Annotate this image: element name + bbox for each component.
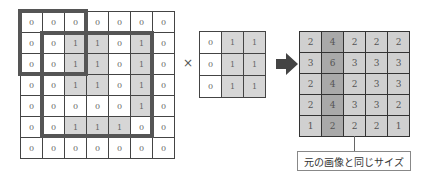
grid-cell: 1 <box>65 75 87 96</box>
grid-cell: 4 <box>322 32 344 53</box>
grid-cell: 2 <box>388 95 410 116</box>
grid-cell: 2 <box>366 32 388 53</box>
grid-cell: 1 <box>87 54 109 75</box>
grid-cell: 0 <box>109 54 131 75</box>
grid-cell: 0 <box>21 54 43 75</box>
grid-cell: 1 <box>87 75 109 96</box>
grid-cell: 1 <box>244 76 266 98</box>
output-feature-map-grid: 2422236333242332433212221 <box>299 31 410 137</box>
grid-cell: 1 <box>131 96 153 117</box>
grid-cell: 1 <box>65 54 87 75</box>
grid-cell: 0 <box>200 32 222 54</box>
grid-cell: 1 <box>300 116 322 137</box>
grid-cell: 0 <box>153 33 175 54</box>
grid-cell: 0 <box>43 54 65 75</box>
right-arrow-icon <box>276 53 298 75</box>
grid-cell: 2 <box>300 74 322 95</box>
grid-cell: 1 <box>131 33 153 54</box>
grid-cell: 0 <box>131 12 153 33</box>
grid-cell: 0 <box>153 12 175 33</box>
grid-cell: 2 <box>344 32 366 53</box>
grid-cell: 0 <box>109 75 131 96</box>
grid-cell: 4 <box>322 74 344 95</box>
grid-cell: 3 <box>366 95 388 116</box>
grid-cell: 1 <box>244 32 266 54</box>
grid-cell: 0 <box>109 33 131 54</box>
multiply-sign: × <box>183 56 193 70</box>
grid-cell: 3 <box>344 53 366 74</box>
grid-cell: 3 <box>388 53 410 74</box>
grid-cell: 0 <box>43 117 65 138</box>
grid-cell: 2 <box>388 32 410 53</box>
grid-cell: 6 <box>322 53 344 74</box>
grid-cell: 3 <box>300 53 322 74</box>
grid-cell: 0 <box>21 75 43 96</box>
grid-cell: 1 <box>131 75 153 96</box>
grid-cell: 0 <box>87 138 109 159</box>
grid-cell: 0 <box>21 96 43 117</box>
grid-cell: 0 <box>87 12 109 33</box>
grid-cell: 0 <box>21 33 43 54</box>
grid-cell: 0 <box>43 138 65 159</box>
grid-cell: 0 <box>200 76 222 98</box>
grid-cell: 2 <box>366 116 388 137</box>
grid-cell: 1 <box>222 54 244 76</box>
kernel-grid: 011011011 <box>199 31 266 98</box>
grid-cell: 3 <box>388 74 410 95</box>
grid-cell: 0 <box>153 117 175 138</box>
grid-cell: 1 <box>87 33 109 54</box>
same-size-label: 元の画像と同じサイズ <box>297 151 411 171</box>
grid-cell: 0 <box>43 33 65 54</box>
grid-cell: 1 <box>87 117 109 138</box>
grid-cell: 0 <box>200 54 222 76</box>
grid-cell: 4 <box>322 95 344 116</box>
grid-cell: 1 <box>109 117 131 138</box>
grid-cell: 1 <box>65 33 87 54</box>
grid-cell: 3 <box>366 74 388 95</box>
grid-cell: 0 <box>21 138 43 159</box>
grid-cell: 0 <box>43 75 65 96</box>
grid-cell: 3 <box>366 53 388 74</box>
grid-cell: 0 <box>65 96 87 117</box>
grid-cell: 0 <box>131 138 153 159</box>
grid-cell: 0 <box>65 138 87 159</box>
grid-cell: 1 <box>222 32 244 54</box>
grid-cell: 2 <box>300 32 322 53</box>
grid-cell: 0 <box>153 138 175 159</box>
input-image-grid: 0000000001101000110100011010000001000111… <box>20 11 175 159</box>
grid-cell: 1 <box>244 54 266 76</box>
grid-cell: 3 <box>344 95 366 116</box>
grid-cell: 0 <box>109 12 131 33</box>
grid-cell: 0 <box>153 96 175 117</box>
grid-cell: 2 <box>322 116 344 137</box>
grid-cell: 2 <box>300 95 322 116</box>
label-connector-line <box>354 136 355 151</box>
grid-cell: 0 <box>131 117 153 138</box>
grid-cell: 0 <box>21 117 43 138</box>
grid-cell: 0 <box>43 96 65 117</box>
grid-cell: 1 <box>65 117 87 138</box>
grid-cell: 1 <box>388 116 410 137</box>
grid-cell: 1 <box>131 54 153 75</box>
grid-cell: 0 <box>153 75 175 96</box>
grid-cell: 0 <box>21 12 43 33</box>
grid-cell: 2 <box>344 74 366 95</box>
grid-cell: 1 <box>222 76 244 98</box>
grid-cell: 0 <box>109 96 131 117</box>
grid-cell: 0 <box>43 12 65 33</box>
grid-cell: 0 <box>109 138 131 159</box>
grid-cell: 0 <box>87 96 109 117</box>
grid-cell: 0 <box>153 54 175 75</box>
grid-cell: 0 <box>65 12 87 33</box>
grid-cell: 2 <box>344 116 366 137</box>
